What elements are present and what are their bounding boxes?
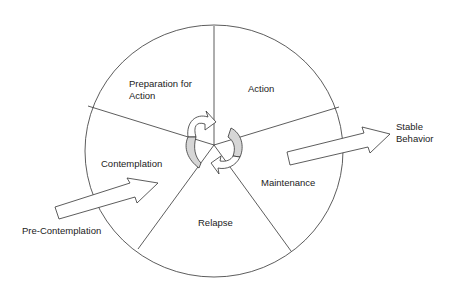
segment-label-contemplation: Contemplation (101, 158, 162, 169)
entry-arrow-icon (55, 178, 158, 219)
exit-label-stable-behavior: Stable Behavior (396, 121, 434, 144)
segment-label-preparation: Preparation for Action (129, 78, 194, 101)
segment-label-relapse: Relapse (198, 217, 233, 228)
segment-label-action: Action (248, 83, 274, 94)
segment-label-maintenance: Maintenance (261, 177, 315, 188)
entry-label-pre-contemplation: Pre-Contemplation (22, 225, 101, 236)
exit-arrow-icon (287, 127, 390, 165)
cycle-arrow-left (186, 137, 201, 168)
cycle-arrow-bottom (211, 156, 240, 174)
stages-of-change-diagram: Preparation for Action Action Maintenanc… (0, 0, 458, 291)
cycle-arrow-top (188, 111, 216, 137)
cycle-arrow-right (228, 128, 242, 157)
